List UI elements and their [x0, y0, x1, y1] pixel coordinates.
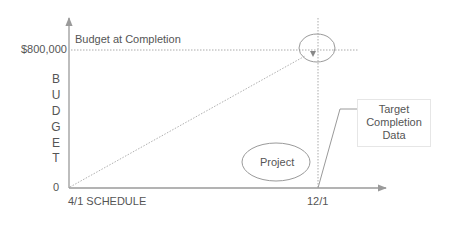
y-axis-letter: T [49, 152, 63, 164]
x-axis-start-label: 4/1 SCHEDULE [68, 196, 146, 207]
y-axis-top-value: $800,000 [21, 44, 67, 55]
callout-line: Completion [358, 116, 430, 129]
y-axis-letter: U [49, 89, 63, 101]
callout-leader-line [318, 109, 358, 188]
y-axis-letter: D [49, 105, 63, 117]
completion-point-ellipse [299, 34, 335, 62]
y-axis-letter: E [49, 137, 63, 149]
y-axis-bottom-value: 0 [53, 182, 59, 193]
target-arrowhead [310, 51, 316, 57]
target-completion-callout: Target Completion Data [357, 99, 431, 147]
callout-line: Data [358, 129, 430, 142]
x-axis-end-label: 12/1 [307, 196, 328, 207]
y-axis-letter: B [49, 73, 63, 85]
callout-line: Target [358, 103, 430, 116]
budget-at-completion-label: Budget at Completion [75, 34, 181, 45]
project-label: Project [260, 156, 294, 168]
y-axis-letter: G [49, 121, 63, 133]
